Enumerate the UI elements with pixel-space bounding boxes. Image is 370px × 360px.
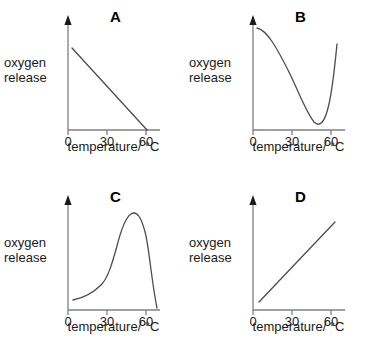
- axes-a: [64, 15, 160, 135]
- y-axis-label-line2: release: [4, 250, 62, 265]
- y-axis-arrow-icon: [249, 15, 256, 25]
- panel-c: C oxygen release 0 30 60 temperature/ °C: [0, 180, 185, 360]
- panel-letter-b: B: [295, 8, 306, 25]
- panel-letter-c: C: [110, 188, 121, 205]
- y-axis-label-line1: oxygen: [4, 235, 62, 250]
- curve-d: [259, 222, 335, 302]
- y-axis-arrow-icon: [64, 15, 71, 25]
- y-axis-label-line1: oxygen: [4, 55, 62, 70]
- panel-d: D oxygen release 0 30 60 temperature/ °C: [185, 180, 370, 360]
- y-axis-arrow-icon: [64, 195, 71, 205]
- y-axis-label-line1: oxygen: [189, 55, 247, 70]
- x-axis-label-b: temperature/ °C: [231, 139, 366, 154]
- y-axis-arrow-icon: [249, 195, 256, 205]
- x-axis-label-a: temperature/ °C: [46, 139, 181, 154]
- y-axis-label-a: oxygen release: [4, 55, 62, 85]
- y-axis-label-line2: release: [189, 70, 247, 85]
- panel-a: A oxygen release 0 30 60 temperature/ °C: [0, 0, 185, 180]
- axes-b: [249, 15, 345, 135]
- y-axis-label-b: oxygen release: [189, 55, 247, 85]
- figure-grid: A oxygen release 0 30 60 temperature/ °C…: [0, 0, 370, 360]
- y-axis-label-line2: release: [189, 250, 247, 265]
- curve-a: [72, 48, 147, 130]
- y-axis-label-line2: release: [4, 70, 62, 85]
- panel-letter-d: D: [295, 188, 306, 205]
- x-axis-label-c: temperature/ °C: [46, 319, 181, 334]
- axes-c: [64, 195, 160, 315]
- curve-c: [73, 213, 157, 308]
- panel-b: B oxygen release 0 30 60 temperature/ °C: [185, 0, 370, 180]
- panel-letter-a: A: [110, 8, 121, 25]
- y-axis-label-line1: oxygen: [189, 235, 247, 250]
- y-axis-label-c: oxygen release: [4, 235, 62, 265]
- y-axis-label-d: oxygen release: [189, 235, 247, 265]
- curve-b: [257, 28, 337, 124]
- x-axis-label-d: temperature/ °C: [231, 319, 366, 334]
